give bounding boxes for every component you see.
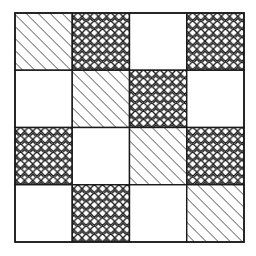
grid-cell-r1c3 xyxy=(130,13,187,70)
grid-cell-r3c1 xyxy=(15,128,72,185)
figure-canvas xyxy=(0,0,256,256)
grid-cells-layer xyxy=(15,13,244,242)
grid-cell-r4c4 xyxy=(187,185,244,242)
grid-cell-r2c1 xyxy=(15,70,72,127)
grid-cell-r2c3 xyxy=(130,70,187,127)
grid-cell-r1c2 xyxy=(72,13,129,70)
hatched-grid-figure xyxy=(0,0,256,256)
grid-cell-r4c3 xyxy=(130,185,187,242)
grid-cell-r2c2 xyxy=(72,70,129,127)
grid-cell-r3c3 xyxy=(130,128,187,185)
grid-cell-r1c4 xyxy=(187,13,244,70)
grid-cell-r2c4 xyxy=(187,70,244,127)
grid-cell-r1c1 xyxy=(15,13,72,70)
grid-cell-r3c2 xyxy=(72,128,129,185)
grid-cell-r3c4 xyxy=(187,128,244,185)
grid-cell-r4c2 xyxy=(72,185,129,242)
grid-cell-r4c1 xyxy=(15,185,72,242)
